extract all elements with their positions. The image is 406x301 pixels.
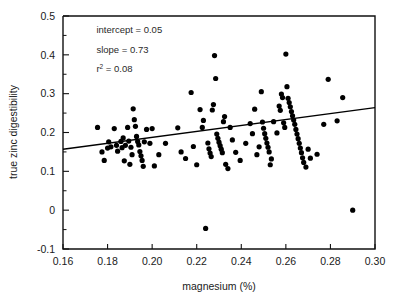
data-point (175, 125, 180, 130)
data-point (112, 126, 117, 131)
data-point (212, 53, 217, 58)
data-point (99, 149, 104, 154)
data-point (233, 150, 238, 155)
x-tick-label: 0.28 (320, 255, 341, 267)
data-point (296, 136, 301, 141)
data-point (292, 122, 297, 127)
data-point (282, 125, 287, 130)
data-point (252, 107, 257, 112)
y-tick-label: 0.1 (40, 165, 55, 177)
data-point (238, 158, 243, 163)
data-point (257, 144, 262, 149)
data-point (102, 158, 107, 163)
data-point (254, 152, 259, 157)
data-point (209, 154, 214, 159)
data-point (298, 145, 303, 150)
data-point (335, 118, 340, 123)
data-point (179, 149, 184, 154)
data-point (314, 152, 319, 157)
data-point (132, 117, 137, 122)
data-point (263, 136, 268, 141)
data-point (274, 130, 279, 135)
data-point (261, 126, 266, 131)
data-point (300, 155, 305, 160)
data-point (205, 140, 210, 145)
data-point (128, 145, 133, 150)
data-point (288, 104, 293, 109)
data-point (243, 141, 248, 146)
annotation-group: intercept = 0.05slope = 0.73r2 = 0.08 (96, 24, 162, 74)
x-tick-label: 0.16 (53, 255, 74, 267)
y-tick-label: 0.5 (40, 10, 55, 22)
data-point (127, 162, 132, 167)
x-axis-tick-labels: 0.160.180.200.220.240.260.280.30 (53, 255, 386, 267)
data-point (210, 107, 215, 112)
y-tick-label: 0 (49, 204, 55, 216)
x-tick-label: 0.18 (97, 255, 118, 267)
data-point (121, 135, 126, 140)
data-point (250, 131, 255, 136)
data-point (191, 144, 196, 149)
data-point (306, 147, 311, 152)
data-point (297, 141, 302, 146)
data-point (281, 120, 286, 125)
annotation-r2: r2 = 0.08 (96, 63, 132, 75)
data-point (350, 208, 355, 213)
data-point (95, 125, 100, 130)
data-point (203, 226, 208, 231)
chart-canvas: 0.160.180.200.220.240.260.280.30 -0.100.… (0, 0, 406, 301)
x-tick-label: 0.20 (142, 255, 163, 267)
data-point (221, 119, 226, 124)
data-point (294, 131, 299, 136)
data-point (141, 164, 146, 169)
data-point (136, 142, 141, 147)
data-point (301, 160, 306, 165)
data-point (308, 156, 313, 161)
data-point (293, 127, 298, 132)
y-tick-label: 0.4 (40, 49, 55, 61)
data-point (303, 164, 308, 169)
x-tick-label: 0.22 (186, 255, 207, 267)
data-point (147, 141, 152, 146)
data-point (163, 141, 168, 146)
y-axis-title: true zinc digestibility (7, 84, 19, 179)
x-tick-label: 0.26 (276, 255, 297, 267)
data-point (114, 143, 119, 148)
data-point (340, 95, 345, 100)
data-point (220, 150, 225, 155)
data-point (140, 158, 145, 163)
data-point (133, 124, 138, 129)
data-point (321, 122, 326, 127)
data-points-group (95, 51, 355, 231)
data-point (283, 51, 288, 56)
data-point (150, 126, 155, 131)
data-point (108, 144, 113, 149)
data-point (284, 84, 289, 89)
data-point (138, 153, 143, 158)
x-tick-label: 0.24 (231, 255, 252, 267)
data-point (156, 152, 161, 157)
data-point (262, 131, 267, 136)
data-point (152, 163, 157, 168)
x-axis-ticks (63, 244, 375, 249)
data-point (267, 149, 272, 154)
data-point (225, 166, 230, 171)
data-point (134, 134, 139, 139)
y-tick-label: 0.3 (40, 87, 55, 99)
data-point (189, 90, 194, 95)
data-point (299, 150, 304, 155)
x-tick-label: 0.30 (365, 255, 386, 267)
data-point (122, 158, 127, 163)
data-point (129, 152, 134, 157)
data-point (259, 89, 264, 94)
data-point (200, 125, 205, 130)
data-point (265, 145, 270, 150)
y-tick-label: -0.1 (37, 243, 55, 255)
data-point (278, 108, 283, 113)
data-point (211, 102, 216, 107)
x-axis-title: magnesium (%) (182, 280, 256, 292)
y-axis-tick-labels: -0.100.10.20.30.40.5 (37, 10, 55, 255)
y-tick-label: 0.2 (40, 126, 55, 138)
data-point (213, 76, 218, 81)
scatter-plot-figure: 0.160.180.200.220.240.260.280.30 -0.100.… (0, 0, 406, 301)
